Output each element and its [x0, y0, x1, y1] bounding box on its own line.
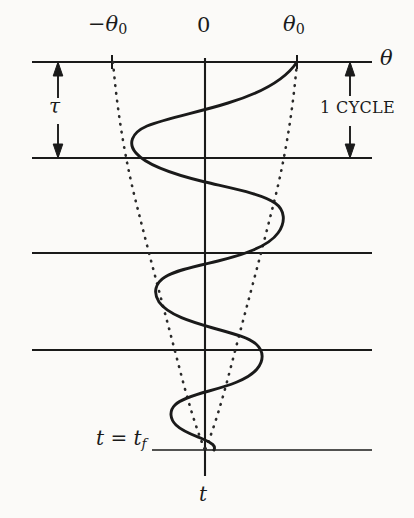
damped-oscillation-curve: [132, 62, 297, 450]
final-time-base: t = t: [96, 426, 142, 450]
one-cycle-label: 1 CYCLE: [320, 100, 395, 116]
neg-theta-zero-subscript: 0: [118, 21, 127, 37]
period-label-tau: τ: [49, 96, 60, 116]
theta-zero-subscript: 0: [296, 21, 305, 37]
damped-oscillation-figure: −θ0 0 θ0 θ τ 1 CYCLE t = tf t: [0, 0, 414, 518]
tau-arrow-up-head: [53, 62, 63, 76]
final-time-subscript: f: [142, 435, 147, 451]
one-cycle-arrow-up-head: [345, 62, 355, 76]
axis-name-t: t: [199, 484, 207, 504]
figure-canvas: [0, 0, 414, 518]
axis-name-theta: θ: [380, 48, 393, 69]
axis-label-theta-zero: θ0: [283, 14, 305, 36]
tau-arrow-down-head: [53, 144, 63, 158]
envelope-upper-dotted: [205, 62, 297, 450]
theta-zero-base: θ: [283, 12, 296, 36]
axis-label-negative-theta-zero: −θ0: [88, 14, 127, 36]
envelope-lower-dotted: [113, 62, 205, 450]
neg-theta-zero-base: −θ: [88, 12, 118, 36]
axis-label-zero: 0: [197, 15, 210, 36]
final-time-label: t = tf: [96, 428, 147, 451]
one-cycle-arrow-down-head: [345, 144, 355, 158]
